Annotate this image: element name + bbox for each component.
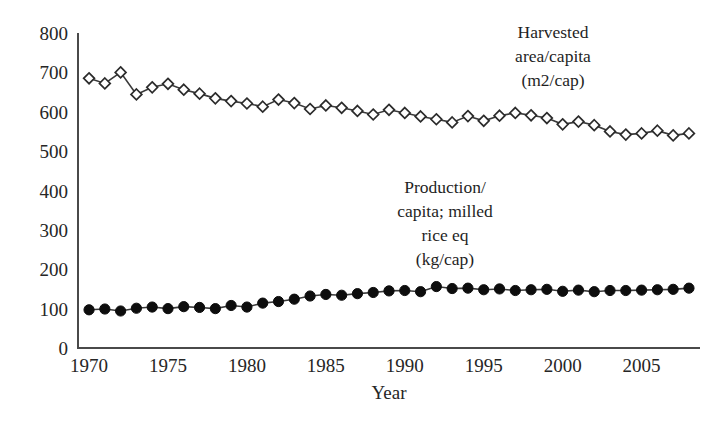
data-point-circle [510,285,520,295]
data-point-circle [636,285,646,295]
data-point-circle [494,284,504,294]
x-tick-label: 1985 [307,355,345,376]
data-point-circle [352,289,362,299]
data-point-circle [321,289,331,299]
data-point-circle [431,281,441,291]
line-chart: 0100200300400500600700800 19701975198019… [0,0,723,432]
y-tick-label: 400 [40,181,69,202]
y-tick-label: 200 [40,259,69,280]
chart-container: 0100200300400500600700800 19701975198019… [0,0,723,432]
x-tick-label: 1995 [465,355,503,376]
y-tick-label: 700 [40,62,69,83]
data-point-circle [210,304,220,314]
data-point-circle [526,285,536,295]
y-tick-label: 300 [40,220,69,241]
data-point-circle [589,287,599,297]
data-point-circle [131,303,141,313]
data-point-circle [463,283,473,293]
data-point-circle [337,290,347,300]
y-tick-label: 600 [40,102,69,123]
x-axis-title: Year [371,382,407,403]
chart-background [0,0,723,432]
x-tick-label: 1975 [149,355,187,376]
data-point-circle [305,291,315,301]
data-point-circle [84,305,94,315]
data-point-circle [400,285,410,295]
y-tick-label: 500 [40,141,69,162]
data-point-circle [384,286,394,296]
data-point-circle [289,294,299,304]
data-point-circle [447,283,457,293]
harvested-area-label: Harvestedarea/capita(m2/cap) [515,22,591,90]
data-point-circle [621,285,631,295]
data-point-circle [368,287,378,297]
y-tick-label: 100 [40,299,69,320]
data-point-circle [100,304,110,314]
data-point-circle [242,302,252,312]
data-point-circle [179,302,189,312]
data-point-circle [147,302,157,312]
data-point-circle [273,296,283,306]
data-point-circle [258,298,268,308]
x-tick-label: 2005 [623,355,661,376]
data-point-circle [116,306,126,316]
data-point-circle [194,302,204,312]
data-point-circle [558,286,568,296]
x-tick-label: 1990 [386,355,424,376]
data-point-circle [668,284,678,294]
data-point-circle [573,285,583,295]
x-tick-label: 1970 [70,355,108,376]
y-tick-label: 0 [59,338,69,359]
data-point-circle [226,300,236,310]
data-point-circle [415,287,425,297]
data-point-circle [479,285,489,295]
x-tick-label: 2000 [544,355,582,376]
data-point-circle [652,285,662,295]
data-point-circle [605,285,615,295]
data-point-circle [163,304,173,314]
data-point-circle [542,284,552,294]
data-point-circle [684,283,694,293]
y-tick-label: 800 [40,23,69,44]
y-axis-tick-labels: 0100200300400500600700800 [40,23,69,359]
x-tick-label: 1980 [228,355,266,376]
